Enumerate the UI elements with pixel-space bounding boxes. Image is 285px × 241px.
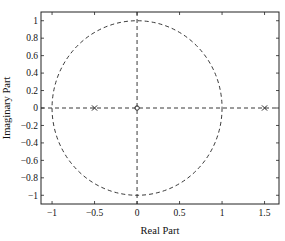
y-tick-label: 0 bbox=[33, 103, 38, 113]
y-tick-label: −1 bbox=[28, 191, 38, 201]
y-axis-label: Imaginary Part bbox=[1, 77, 12, 140]
y-tick-label: 0.4 bbox=[26, 68, 38, 78]
y-tick-label: 0.8 bbox=[26, 33, 38, 43]
x-tick-label: −1 bbox=[47, 208, 57, 218]
ticks: −1−0.500.511.510.80.60.40.20−0.2−0.4−0.6… bbox=[21, 12, 279, 218]
y-tick-label: −0.2 bbox=[21, 121, 38, 131]
y-tick-label: 0.2 bbox=[26, 86, 38, 96]
y-tick-label: −0.6 bbox=[21, 156, 38, 166]
pole-zero-plot: −1−0.500.511.510.80.60.40.20−0.2−0.4−0.6… bbox=[0, 0, 285, 241]
x-axis-label: Real Part bbox=[141, 225, 180, 236]
x-tick-label: 0 bbox=[135, 208, 140, 218]
x-tick-label: 1 bbox=[220, 208, 225, 218]
y-tick-label: 1 bbox=[33, 16, 38, 26]
plot-area bbox=[41, 12, 279, 204]
x-tick-label: 1.5 bbox=[259, 208, 271, 218]
y-tick-label: −0.4 bbox=[21, 138, 38, 148]
y-tick-label: −0.8 bbox=[21, 173, 38, 183]
y-tick-label: 0.6 bbox=[26, 51, 38, 61]
x-tick-label: −0.5 bbox=[86, 208, 103, 218]
x-tick-label: 0.5 bbox=[174, 208, 186, 218]
